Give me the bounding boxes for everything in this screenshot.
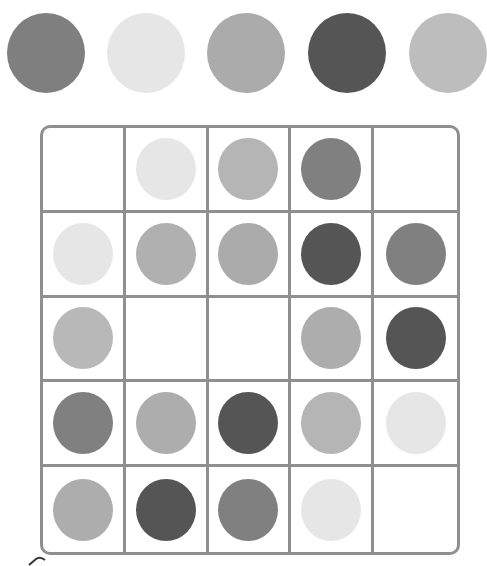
game-piece [301, 138, 361, 200]
game-piece [301, 223, 361, 285]
board-cell-r1-c5[interactable] [374, 128, 457, 213]
board-cell-r4-c4[interactable] [291, 382, 374, 467]
board-cell-r3-c3[interactable] [209, 298, 292, 383]
palette-color-4[interactable] [308, 13, 386, 93]
game-board [40, 125, 460, 555]
game-piece [218, 479, 278, 541]
palette-color-3[interactable] [207, 13, 285, 93]
game-piece [301, 392, 361, 454]
board-cell-r2-c5[interactable] [374, 213, 457, 298]
board-cell-r1-c3[interactable] [209, 128, 292, 213]
board-cell-r5-c3[interactable] [209, 467, 292, 552]
board-cell-r3-c1[interactable] [43, 298, 126, 383]
game-piece [386, 223, 446, 285]
board-cell-r3-c4[interactable] [291, 298, 374, 383]
game-piece [136, 392, 196, 454]
game-piece [53, 307, 113, 369]
game-piece [301, 307, 361, 369]
board-cell-r4-c2[interactable] [126, 382, 209, 467]
game-piece [218, 138, 278, 200]
board-cell-r4-c1[interactable] [43, 382, 126, 467]
board-cell-r2-c3[interactable] [209, 213, 292, 298]
game-piece [136, 223, 196, 285]
board-cell-r5-c5[interactable] [374, 467, 457, 552]
board-cell-r3-c2[interactable] [126, 298, 209, 383]
board-cell-r2-c4[interactable] [291, 213, 374, 298]
board-cell-r5-c1[interactable] [43, 467, 126, 552]
cursor-pin-icon [28, 556, 46, 566]
board-cell-r3-c5[interactable] [374, 298, 457, 383]
game-piece [218, 223, 278, 285]
board-cell-r2-c1[interactable] [43, 213, 126, 298]
board-cell-r5-c2[interactable] [126, 467, 209, 552]
board-cell-r1-c2[interactable] [126, 128, 209, 213]
palette-color-5[interactable] [409, 13, 487, 93]
board-cell-r1-c4[interactable] [291, 128, 374, 213]
game-piece [301, 479, 361, 541]
board-cell-r5-c4[interactable] [291, 467, 374, 552]
game-piece [218, 392, 278, 454]
palette-color-2[interactable] [107, 13, 185, 93]
board-cell-r2-c2[interactable] [126, 213, 209, 298]
game-piece [136, 138, 196, 200]
game-piece [386, 392, 446, 454]
game-piece [53, 223, 113, 285]
palette-color-1[interactable] [7, 13, 85, 93]
game-piece [386, 307, 446, 369]
board-cell-r4-c5[interactable] [374, 382, 457, 467]
color-palette [0, 0, 487, 110]
game-piece [53, 479, 113, 541]
board-cell-r1-c1[interactable] [43, 128, 126, 213]
game-piece [53, 392, 113, 454]
game-piece [136, 479, 196, 541]
board-cell-r4-c3[interactable] [209, 382, 292, 467]
